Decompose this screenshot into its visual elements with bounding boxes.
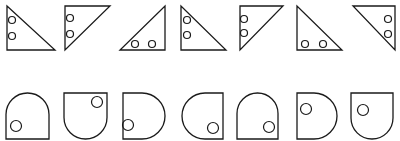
small-circle-icon	[67, 31, 74, 38]
small-circle-icon	[9, 33, 16, 40]
small-circle-icon	[320, 41, 327, 48]
d-shape-figure-7	[351, 93, 393, 139]
triangle-figure-5	[240, 6, 283, 50]
small-circle-icon	[208, 123, 219, 134]
small-circle-icon	[241, 30, 248, 37]
d-shape-figure-2	[64, 93, 107, 139]
d-shape-figure-1	[6, 93, 49, 139]
d-shape-outline	[64, 93, 107, 139]
right-triangle-outline	[240, 6, 283, 50]
d-shape-outline	[297, 93, 337, 139]
right-triangle-outline	[181, 6, 226, 50]
triangle-figure-6	[297, 6, 342, 50]
small-circle-icon	[132, 41, 139, 48]
small-circle-icon	[358, 105, 369, 116]
small-circle-icon	[9, 17, 16, 24]
small-circle-icon	[302, 41, 309, 48]
triangle-figure-4	[181, 6, 226, 50]
triangle-row	[7, 6, 395, 50]
small-circle-icon	[184, 32, 191, 39]
shape-sequence-diagram	[0, 0, 400, 141]
small-circle-icon	[385, 16, 392, 23]
small-circle-icon	[301, 104, 312, 115]
figure-canvas	[0, 0, 400, 141]
triangle-figure-7	[353, 6, 395, 50]
small-circle-icon	[385, 31, 392, 38]
d-shape-row	[6, 93, 393, 139]
small-circle-icon	[264, 122, 275, 133]
right-triangle-outline	[7, 6, 55, 50]
d-shape-outline	[351, 93, 393, 139]
triangle-figure-2	[65, 6, 110, 50]
triangle-figure-1	[7, 6, 55, 50]
d-shape-figure-5	[237, 93, 278, 139]
triangle-figure-3	[120, 6, 165, 50]
small-circle-icon	[184, 17, 191, 24]
d-shape-figure-4	[182, 93, 223, 139]
d-shape-figure-3	[123, 93, 166, 139]
small-circle-icon	[11, 121, 22, 132]
d-shape-outline	[6, 93, 49, 139]
small-circle-icon	[67, 15, 74, 22]
small-circle-icon	[149, 41, 156, 48]
right-triangle-outline	[65, 6, 110, 50]
small-circle-icon	[92, 97, 103, 108]
d-shape-outline	[123, 93, 165, 139]
small-circle-icon	[123, 120, 134, 131]
small-circle-icon	[241, 16, 248, 23]
right-triangle-outline	[353, 6, 395, 50]
right-triangle-outline	[120, 6, 165, 50]
d-shape-figure-6	[297, 93, 337, 139]
